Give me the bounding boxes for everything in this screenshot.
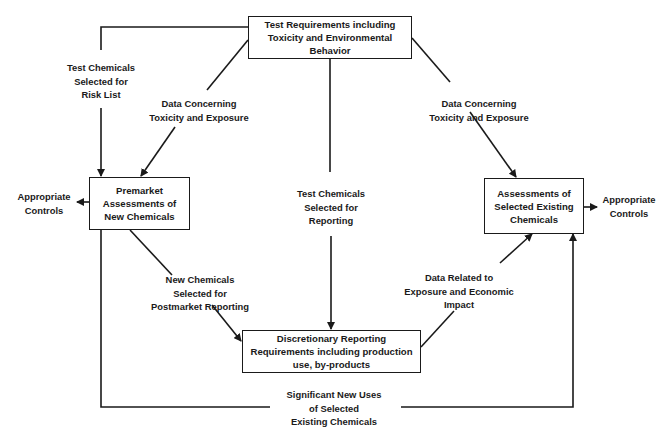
label-text: of Selected [287,402,382,416]
label-data-right: Data Concerning Toxicity and Exposure [429,97,528,124]
label-text: Selected for [151,287,249,301]
label-text: Reporting [297,214,365,228]
label-risk-list: Test Chemicals Selected for Risk List [67,61,135,102]
label-text: Appropriate [602,193,655,207]
node-text: Selected Existing [494,200,573,213]
label-text: Postmarket Reporting [151,300,249,314]
node-text: Requirements including production [250,345,412,358]
node-premarket-assessments: Premarket Assessments of New Chemicals [89,177,190,230]
node-assessments-existing: Assessments of Selected Existing Chemica… [484,178,584,234]
edge-data-right-top [412,38,450,82]
node-text: Test Requirements including [265,18,396,31]
label-controls-left: Appropriate Controls [17,190,70,217]
node-text: Chemicals [494,213,573,226]
label-text: Test Chemicals [67,61,135,75]
label-text: Toxicity and Exposure [149,111,248,125]
edge-data-left-bottom [141,127,175,176]
label-text: Selected for [67,75,135,89]
label-text: Data Related to [404,271,513,285]
node-text: Toxicity and Environmental [265,31,396,44]
label-text: Data Concerning [149,97,248,111]
label-text: Controls [17,204,70,218]
node-text: Assessments of [494,187,573,200]
label-controls-right: Appropriate Controls [602,193,655,220]
label-data-left: Data Concerning Toxicity and Exposure [149,97,248,124]
label-text: Risk List [67,88,135,102]
node-test-requirements: Test Requirements including Toxicity and… [248,16,412,59]
edge-new-uses-left [101,230,270,407]
node-text: Assessments of [103,197,177,210]
edge-risk-list-top [101,27,248,50]
node-text: Discretionary Reporting [250,332,412,345]
node-text: use, by-products [250,358,412,371]
label-text: New Chemicals [151,273,249,287]
node-text: New Chemicals [103,210,177,223]
edge-economic-top [500,234,532,263]
label-reporting: Test Chemicals Selected for Reporting [297,187,365,228]
edge-economic-bottom [421,311,454,347]
label-text: Controls [602,207,655,221]
node-text: Premarket [103,184,177,197]
label-text: Significant New Uses [287,388,382,402]
label-postmarket: New Chemicals Selected for Postmarket Re… [151,273,249,314]
label-text: Impact [404,298,513,312]
label-text: Data Concerning [429,97,528,111]
label-text: Test Chemicals [297,187,365,201]
label-text: Existing Chemicals [287,415,382,429]
edge-data-left-top [207,40,248,90]
label-text: Exposure and Economic [404,285,513,299]
edge-postmarket-top [130,230,172,275]
edge-new-uses-right [401,234,573,407]
label-text: Selected for [297,201,365,215]
node-text: Behavior [265,44,396,57]
label-new-uses: Significant New Uses of Selected Existin… [287,388,382,429]
label-text: Toxicity and Exposure [429,111,528,125]
label-text: Appropriate [17,190,70,204]
label-economic: Data Related to Exposure and Economic Im… [404,271,513,312]
node-discretionary-reporting: Discretionary Reporting Requirements inc… [242,330,421,373]
